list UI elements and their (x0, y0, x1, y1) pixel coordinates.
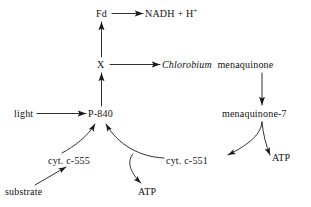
edge-substrate-to-c555 (35, 167, 66, 185)
edge-mq7-to-c551 (228, 122, 262, 155)
node-p840: P-840 (88, 108, 113, 119)
edge-mq7-to-atp (262, 122, 270, 155)
node-x: X (97, 59, 104, 70)
node-atp-middle: ATP (138, 186, 156, 197)
edge-c555-to-p840 (62, 124, 95, 153)
node-cyt-c555: cyt. c-555 (48, 155, 90, 166)
node-atp-right: ATP (272, 152, 290, 163)
edge-c551-to-p840 (106, 124, 164, 158)
node-light: light (14, 108, 33, 119)
diagram-edge-layer (0, 0, 311, 207)
node-fd: Fd (96, 8, 107, 19)
node-nadh-superscript: + (193, 7, 197, 15)
node-chlorobium-genus: Chlorobium (162, 59, 212, 70)
pathway-diagram: Fd NADH + H+ X Chlorobium menaquinone li… (0, 0, 311, 207)
node-menaquinone-text: menaquinone (217, 59, 273, 70)
node-nadh: NADH + H+ (145, 8, 198, 19)
node-nadh-text: NADH + H (145, 8, 193, 19)
node-menaquinone-7: menaquinone-7 (222, 108, 287, 119)
node-substrate: substrate (5, 186, 42, 197)
node-chlorobium-menaquinone: Chlorobium menaquinone (162, 59, 273, 70)
edge-c551-branch-atp (130, 154, 141, 183)
node-cyt-c551: cyt. c-551 (166, 155, 208, 166)
